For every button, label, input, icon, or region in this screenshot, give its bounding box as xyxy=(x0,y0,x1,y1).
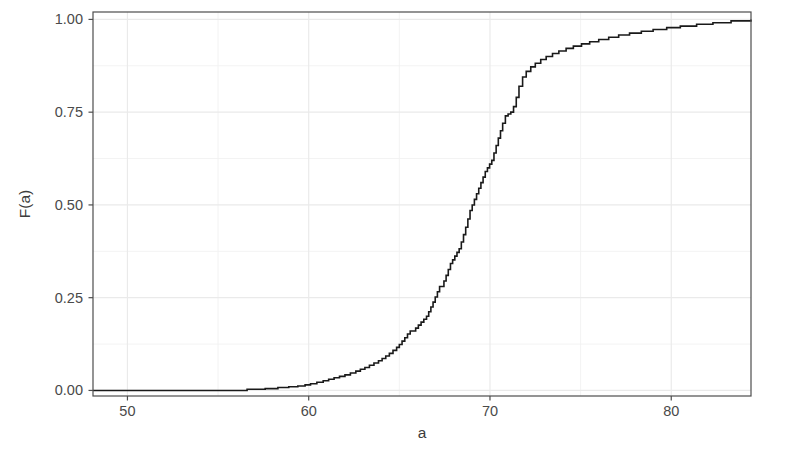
x-tick-label-50: 50 xyxy=(119,403,135,419)
y-tick-label-0.50: 0.50 xyxy=(55,197,83,213)
x-tick-label-80: 80 xyxy=(663,403,679,419)
y-tick-label-0.75: 0.75 xyxy=(55,104,83,120)
y-tick-label-0.00: 0.00 xyxy=(55,382,83,398)
y-axis-title: F(a) xyxy=(16,190,33,218)
ecdf-figure: 50607080 0.000.250.500.751.00 a F(a) xyxy=(0,0,785,457)
y-tick-label-0.25: 0.25 xyxy=(55,290,83,306)
y-tick-label-1.00: 1.00 xyxy=(55,11,83,27)
x-tick-label-60: 60 xyxy=(301,403,317,419)
panel-background xyxy=(93,12,751,396)
x-tick-label-70: 70 xyxy=(482,403,498,419)
x-axis-title: a xyxy=(418,424,427,441)
plot-canvas: 50607080 0.000.250.500.751.00 a F(a) xyxy=(0,0,785,457)
